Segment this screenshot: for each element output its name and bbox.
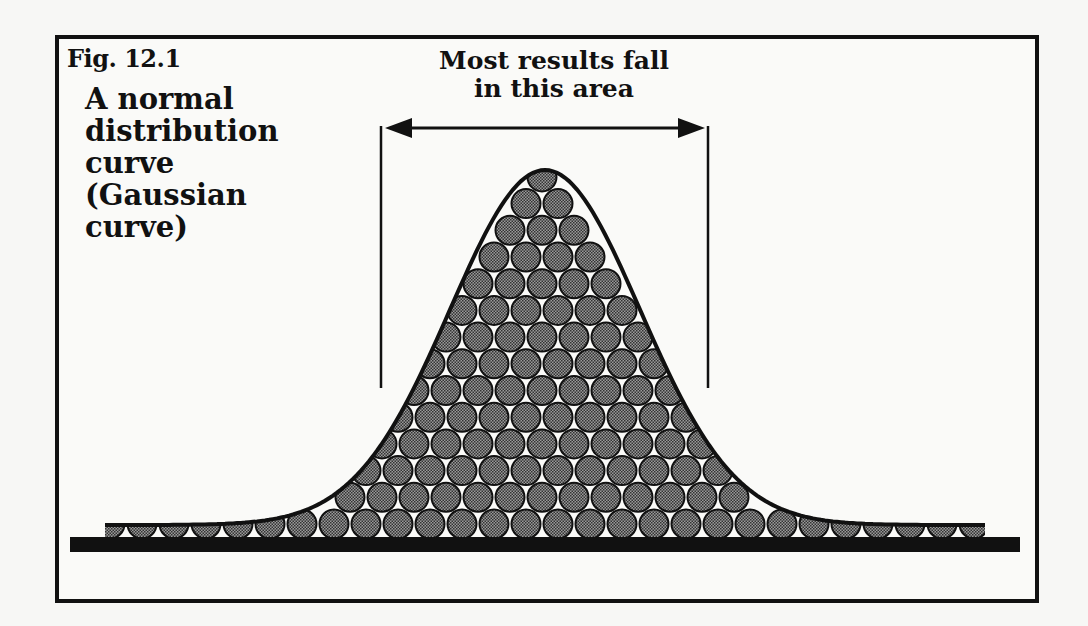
ball xyxy=(560,483,589,512)
ball xyxy=(368,483,397,512)
ball xyxy=(416,456,445,485)
ball xyxy=(496,429,525,458)
ball xyxy=(464,429,493,458)
ball xyxy=(464,376,493,405)
ball xyxy=(416,403,445,432)
ball xyxy=(432,483,461,512)
ball xyxy=(496,483,525,512)
ball xyxy=(480,510,509,539)
ball xyxy=(448,510,477,539)
ball xyxy=(480,403,509,432)
ball xyxy=(480,456,509,485)
ball xyxy=(608,456,637,485)
ball xyxy=(512,349,541,378)
arrow-right-icon xyxy=(678,118,705,138)
ball xyxy=(592,429,621,458)
ball xyxy=(672,456,701,485)
ball xyxy=(608,403,637,432)
ball xyxy=(656,483,685,512)
ball xyxy=(384,510,413,539)
ball xyxy=(528,483,557,512)
ball xyxy=(432,376,461,405)
ball xyxy=(464,323,493,352)
ball xyxy=(576,403,605,432)
ball xyxy=(480,243,509,272)
ball xyxy=(512,189,541,218)
ball xyxy=(592,269,621,298)
ball xyxy=(608,296,637,325)
ball xyxy=(560,429,589,458)
ball xyxy=(624,483,653,512)
ball xyxy=(256,510,285,539)
stacked-balls xyxy=(96,162,989,538)
ball xyxy=(480,296,509,325)
ball xyxy=(656,376,685,405)
ball xyxy=(544,510,573,539)
ball xyxy=(592,376,621,405)
ball xyxy=(640,456,669,485)
ball xyxy=(688,483,717,512)
ball xyxy=(544,189,573,218)
ball xyxy=(656,429,685,458)
ball xyxy=(576,456,605,485)
ball xyxy=(512,296,541,325)
ball xyxy=(528,216,557,245)
ball xyxy=(800,510,829,539)
ball xyxy=(512,456,541,485)
ball xyxy=(704,510,733,539)
ball xyxy=(496,269,525,298)
ball xyxy=(624,429,653,458)
ball xyxy=(448,456,477,485)
ball xyxy=(608,510,637,539)
ball xyxy=(432,429,461,458)
ball xyxy=(496,376,525,405)
ball xyxy=(448,349,477,378)
ball xyxy=(512,510,541,539)
ball xyxy=(320,510,349,539)
baseline-bar xyxy=(70,537,1020,552)
ball xyxy=(528,376,557,405)
arrow-left-icon xyxy=(385,118,412,138)
ball xyxy=(640,403,669,432)
ball xyxy=(560,269,589,298)
ball xyxy=(672,510,701,539)
ball xyxy=(464,483,493,512)
ball xyxy=(528,429,557,458)
ball xyxy=(544,243,573,272)
ball xyxy=(336,483,365,512)
ball xyxy=(496,323,525,352)
ball xyxy=(352,456,381,485)
ball xyxy=(496,216,525,245)
ball xyxy=(528,269,557,298)
ball xyxy=(400,483,429,512)
ball xyxy=(448,403,477,432)
ball xyxy=(528,162,557,191)
ball xyxy=(592,323,621,352)
bell-curve-diagram xyxy=(0,0,1088,626)
ball xyxy=(544,296,573,325)
ball xyxy=(624,376,653,405)
ball xyxy=(736,510,765,539)
ball xyxy=(544,349,573,378)
ball xyxy=(400,429,429,458)
ball xyxy=(544,456,573,485)
ball xyxy=(640,510,669,539)
ball xyxy=(576,296,605,325)
ball xyxy=(512,243,541,272)
ball xyxy=(544,403,573,432)
ball xyxy=(576,243,605,272)
ball xyxy=(560,323,589,352)
ball xyxy=(576,349,605,378)
ball xyxy=(528,323,557,352)
ball xyxy=(560,376,589,405)
ball xyxy=(416,510,445,539)
ball xyxy=(592,483,621,512)
ball xyxy=(352,510,381,539)
ball xyxy=(480,349,509,378)
ball xyxy=(512,403,541,432)
ball xyxy=(576,510,605,539)
ball xyxy=(384,456,413,485)
ball xyxy=(608,349,637,378)
ball xyxy=(560,216,589,245)
